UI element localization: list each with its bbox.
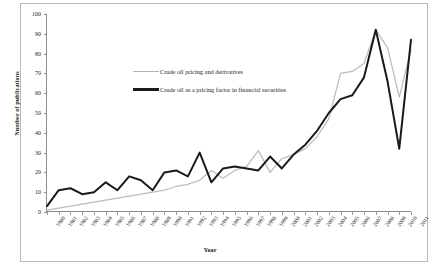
series-line-crude-oil-pricing-and-derivatives bbox=[47, 30, 411, 210]
plot-lines bbox=[0, 0, 434, 273]
series-line-crude-oil-as-pricing-factor bbox=[47, 30, 411, 206]
publications-line-chart: Number of publications Year 010203040506… bbox=[0, 0, 434, 273]
